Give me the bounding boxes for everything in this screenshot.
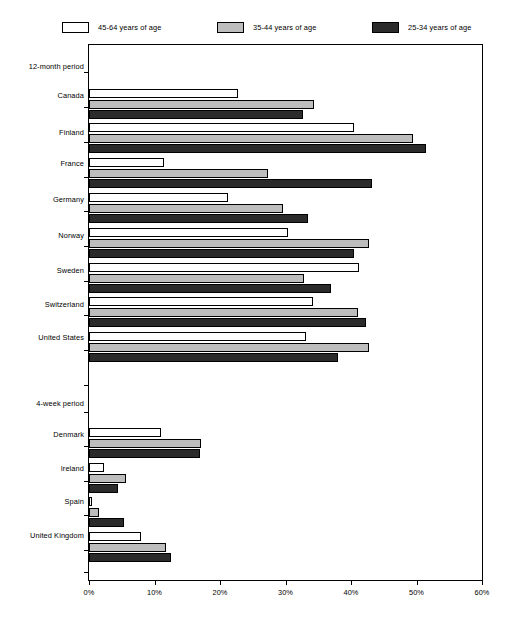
bar-sweden-35-44 xyxy=(89,274,304,283)
plot-area: 0%10%20%30%40%50%60% xyxy=(88,44,483,581)
bar-denmark-35-44 xyxy=(89,439,201,448)
y-axis-tick xyxy=(84,572,89,573)
bar-france-25-34 xyxy=(89,179,372,188)
x-axis-label-10: 10% xyxy=(135,588,175,597)
legend-item-45-64: 45-64 years of age xyxy=(62,22,161,33)
bar-finland-25-34 xyxy=(89,144,426,153)
bar-canada-25-34 xyxy=(89,110,303,119)
y-axis-tick xyxy=(84,72,89,73)
bar-spain-25-34 xyxy=(89,518,124,527)
bar-united-states-35-44 xyxy=(89,343,369,352)
bar-denmark-25-34 xyxy=(89,449,200,458)
y-axis-tick xyxy=(84,385,89,386)
bar-sweden-45-64 xyxy=(89,263,359,272)
category-label-finland: Finland xyxy=(0,128,84,137)
bar-germany-35-44 xyxy=(89,204,283,213)
x-axis-label-0: 0% xyxy=(69,588,109,597)
bar-ireland-45-64 xyxy=(89,463,104,472)
bar-germany-45-64 xyxy=(89,193,228,202)
section-label-4-week: 4-week period xyxy=(0,399,84,408)
category-label-sweden: Sweden xyxy=(0,266,84,275)
legend-item-25-34: 25-34 years of age xyxy=(372,22,471,33)
category-label-united-kingdom: United Kingdom xyxy=(0,531,84,540)
bar-switzerland-45-64 xyxy=(89,297,313,306)
category-label-spain: Spain xyxy=(0,497,84,506)
bar-ireland-35-44 xyxy=(89,474,126,483)
bar-france-45-64 xyxy=(89,158,164,167)
bar-united-states-45-64 xyxy=(89,332,306,341)
x-axis-tick xyxy=(220,580,221,585)
legend-label-25-34: 25-34 years of age xyxy=(408,23,471,32)
category-label-denmark: Denmark xyxy=(0,430,84,439)
bar-switzerland-35-44 xyxy=(89,308,358,317)
x-axis-tick xyxy=(482,580,483,585)
x-axis-tick xyxy=(417,580,418,585)
bar-finland-35-44 xyxy=(89,134,413,143)
bar-norway-25-34 xyxy=(89,249,354,258)
chart-legend: 45-64 years of age 35-44 years of age 25… xyxy=(0,22,512,40)
x-axis-label-60: 60% xyxy=(462,588,502,597)
bar-united-kingdom-35-44 xyxy=(89,543,166,552)
bar-united-states-25-34 xyxy=(89,353,338,362)
bar-germany-25-34 xyxy=(89,214,308,223)
legend-swatch-dark xyxy=(372,22,399,33)
x-axis-label-50: 50% xyxy=(397,588,437,597)
bar-canada-45-64 xyxy=(89,89,238,98)
x-axis-tick xyxy=(286,580,287,585)
bar-norway-35-44 xyxy=(89,239,369,248)
y-axis-tick xyxy=(84,412,89,413)
x-axis-label-20: 20% xyxy=(200,588,240,597)
legend-swatch-gray xyxy=(217,22,244,33)
x-axis-label-30: 30% xyxy=(266,588,306,597)
section-label-12-month: 12-month period xyxy=(0,62,84,71)
bar-spain-35-44 xyxy=(89,508,99,517)
legend-label-45-64: 45-64 years of age xyxy=(98,23,161,32)
bar-united-kingdom-45-64 xyxy=(89,532,141,541)
bar-finland-45-64 xyxy=(89,123,354,132)
bar-norway-45-64 xyxy=(89,228,288,237)
category-label-united-states: United States xyxy=(0,333,84,342)
bar-canada-35-44 xyxy=(89,100,314,109)
category-label-ireland: Ireland xyxy=(0,464,84,473)
category-label-france: France xyxy=(0,159,84,168)
x-axis-tick xyxy=(155,580,156,585)
x-axis-tick xyxy=(351,580,352,585)
x-axis-label-40: 40% xyxy=(331,588,371,597)
category-label-switzerland: Switzerland xyxy=(0,300,84,309)
category-label-canada: Canada xyxy=(0,91,84,100)
legend-item-35-44: 35-44 years of age xyxy=(217,22,316,33)
bar-france-35-44 xyxy=(89,169,268,178)
bar-spain-45-64 xyxy=(89,497,92,506)
bar-ireland-25-34 xyxy=(89,484,118,493)
x-axis-tick xyxy=(89,580,90,585)
plot-inner: 0%10%20%30%40%50%60% xyxy=(89,45,482,580)
legend-label-35-44: 35-44 years of age xyxy=(253,23,316,32)
bar-sweden-25-34 xyxy=(89,284,331,293)
category-label-norway: Norway xyxy=(0,231,84,240)
chart-container: 45-64 years of age 35-44 years of age 25… xyxy=(0,0,512,624)
bar-denmark-45-64 xyxy=(89,428,161,437)
bar-united-kingdom-25-34 xyxy=(89,553,171,562)
legend-swatch-white xyxy=(62,22,89,33)
category-label-germany: Germany xyxy=(0,195,84,204)
bar-switzerland-25-34 xyxy=(89,318,366,327)
